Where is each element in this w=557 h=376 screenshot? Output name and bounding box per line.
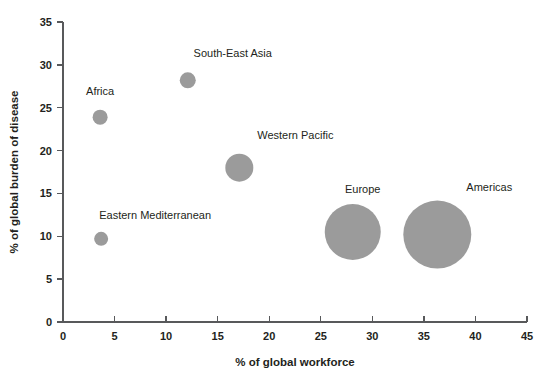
bubble-label-eastern-mediterranean: Eastern Mediterranean xyxy=(99,209,211,221)
bubble-labels-layer: AfricaEastern MediterraneanSouth-East As… xyxy=(86,47,513,221)
x-tick-label: 40 xyxy=(469,330,481,342)
bubble-americas[interactable] xyxy=(403,201,471,269)
x-tick-label: 20 xyxy=(263,330,275,342)
y-axis-title: % of global burden of disease xyxy=(8,91,20,254)
x-axis-title: % of global workforce xyxy=(235,356,355,368)
x-tick-label: 30 xyxy=(366,330,378,342)
bubble-europe[interactable] xyxy=(325,204,381,260)
y-tick-label: 15 xyxy=(40,187,52,199)
y-tick-label: 20 xyxy=(40,145,52,157)
y-tick-label: 35 xyxy=(40,16,52,28)
bubble-chart: 05101520253035404505101520253035 AfricaE… xyxy=(0,0,557,376)
bubble-eastern-mediterranean[interactable] xyxy=(94,232,108,246)
x-tick-label: 5 xyxy=(111,330,117,342)
bubble-label-western-pacific: Western Pacific xyxy=(257,129,334,141)
axes-layer xyxy=(63,22,527,322)
bubble-label-americas: Americas xyxy=(466,181,512,193)
bubble-africa[interactable] xyxy=(93,110,108,125)
x-tick-label: 15 xyxy=(212,330,224,342)
y-tick-label: 10 xyxy=(40,230,52,242)
x-tick-label: 35 xyxy=(418,330,430,342)
bubble-label-south-east-asia: South-East Asia xyxy=(194,47,273,59)
x-tick-label: 0 xyxy=(60,330,66,342)
bubbles-layer xyxy=(93,72,472,268)
bubble-south-east-asia[interactable] xyxy=(180,72,196,88)
y-tick-label: 5 xyxy=(46,273,52,285)
y-tick-label: 30 xyxy=(40,59,52,71)
bubble-label-africa: Africa xyxy=(86,85,115,97)
x-tick-label: 10 xyxy=(160,330,172,342)
bubble-label-europe: Europe xyxy=(345,183,380,195)
y-tick-label: 25 xyxy=(40,102,52,114)
ticks-layer: 05101520253035404505101520253035 xyxy=(40,16,533,342)
bubble-western-pacific[interactable] xyxy=(225,154,253,182)
y-tick-label: 0 xyxy=(46,316,52,328)
chart-canvas: 05101520253035404505101520253035 AfricaE… xyxy=(0,0,557,376)
x-tick-label: 25 xyxy=(315,330,327,342)
x-tick-label: 45 xyxy=(521,330,533,342)
